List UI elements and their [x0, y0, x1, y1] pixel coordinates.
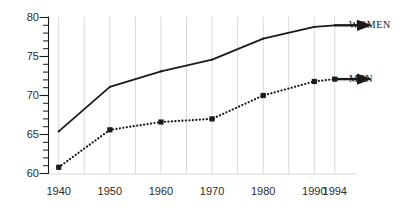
x-tick-label-1994: 1994 [313, 186, 357, 197]
life-expectancy-line-chart: 6065707580 1940195019601970198019901994 … [0, 0, 412, 212]
chart-plot-area [0, 0, 412, 212]
series-label-men: MEN [349, 74, 373, 84]
y-tick-label-80: 80 [13, 12, 39, 23]
x-tick-label-1970: 1970 [190, 186, 234, 197]
y-tick-label-70: 70 [13, 90, 39, 101]
y-axis-ticks [40, 18, 49, 174]
y-tick-label-60: 60 [13, 168, 39, 179]
x-tick-label-1960: 1960 [139, 186, 183, 197]
x-tick-label-1980: 1980 [241, 186, 285, 197]
data-series-group [59, 25, 335, 167]
x-tick-label-1940: 1940 [37, 186, 81, 197]
x-tick-label-1950: 1950 [88, 186, 132, 197]
series-label-women: WOMEN [349, 20, 391, 30]
y-tick-label-75: 75 [13, 51, 39, 62]
y-tick-label-65: 65 [13, 129, 39, 140]
axis-lines [49, 17, 358, 175]
